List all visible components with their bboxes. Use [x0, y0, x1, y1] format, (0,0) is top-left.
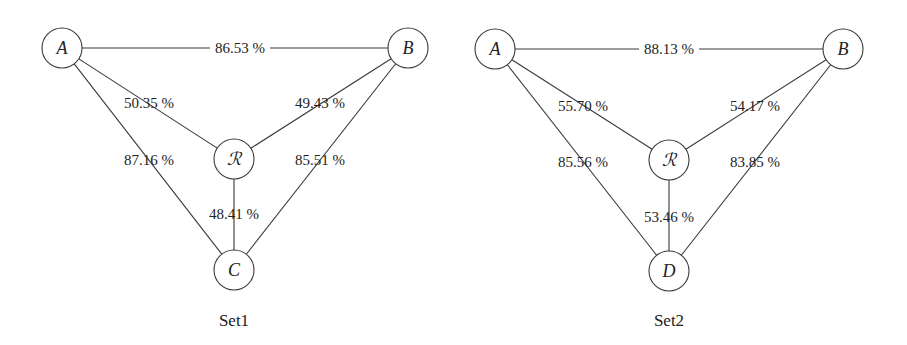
- node-d: D: [649, 251, 689, 291]
- edge-label-r-c: 48.41 %: [209, 206, 259, 222]
- node-label: C: [228, 260, 241, 280]
- edge-label-b-r: 54.17 %: [730, 98, 780, 114]
- edge-label-a-b: 88.13 %: [644, 41, 694, 57]
- node-r: ℛ: [649, 140, 689, 180]
- node-b: B: [388, 28, 428, 68]
- node-label: ℛ: [227, 149, 243, 169]
- edge-label-a-r: 50.35 %: [124, 95, 174, 111]
- node-c: C: [214, 250, 254, 290]
- node-b: B: [823, 29, 863, 69]
- graph-set2: 88.13 %55.70 %54.17 %85.56 %83.85 %53.46…: [475, 29, 863, 330]
- edge-label-a-d: 85.56 %: [558, 154, 608, 170]
- diagrams-root: 86.53 %50.35 %49.43 %87.16 %85.51 %48.41…: [42, 28, 863, 330]
- node-label: A: [56, 38, 69, 58]
- set-caption: Set1: [219, 311, 249, 330]
- node-a: A: [475, 29, 515, 69]
- edge-label-a-r: 55.70 %: [558, 98, 608, 114]
- node-label: B: [403, 38, 414, 58]
- edge-label-b-c: 85.51 %: [295, 152, 345, 168]
- nodes: ABℛC: [42, 28, 428, 290]
- graph-set1: 86.53 %50.35 %49.43 %87.16 %85.51 %48.41…: [42, 28, 428, 330]
- node-label: B: [838, 39, 849, 59]
- node-label: ℛ: [662, 150, 678, 170]
- edge-label-b-d: 83.85 %: [730, 154, 780, 170]
- node-a: A: [42, 28, 82, 68]
- edge-label-b-r: 49.43 %: [295, 95, 345, 111]
- node-r: ℛ: [214, 139, 254, 179]
- node-label: D: [662, 261, 676, 281]
- edge-label-a-c: 87.16 %: [124, 152, 174, 168]
- edge-label-r-d: 53.46 %: [644, 209, 694, 225]
- set-caption: Set2: [654, 311, 684, 330]
- edge-label-a-b: 86.53 %: [215, 40, 265, 56]
- node-label: A: [489, 39, 502, 59]
- nodes: ABℛD: [475, 29, 863, 291]
- diagram-canvas: 86.53 %50.35 %49.43 %87.16 %85.51 %48.41…: [0, 0, 907, 345]
